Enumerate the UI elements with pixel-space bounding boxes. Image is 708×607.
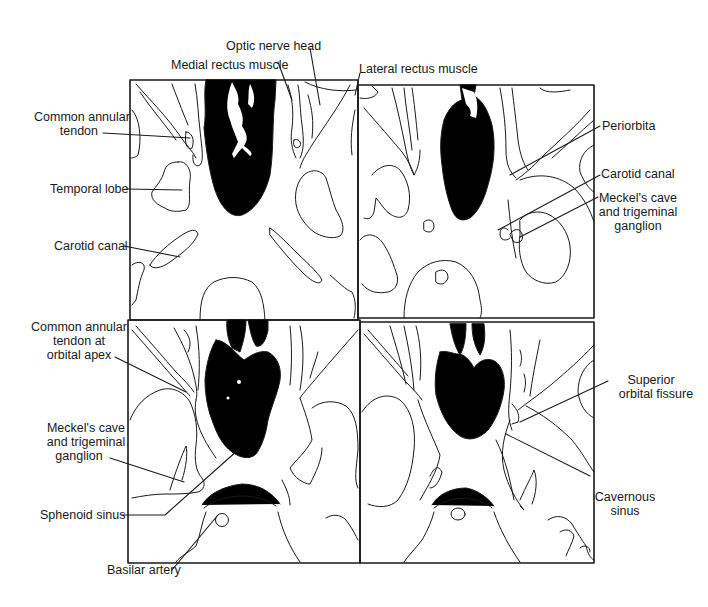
panel-top-right: [360, 85, 594, 318]
label-medial-rectus-muscle: Medial rectus muscle: [171, 58, 288, 72]
panel-bottom-right: [362, 324, 594, 562]
label-carotid-canal-right: Carotid canal: [601, 167, 675, 181]
label-temporal-lobe: Temporal lobe: [50, 182, 129, 196]
panel-top-left: [130, 80, 356, 320]
label-meckels-cave-left: Meckel's cave and trigeminal ganglion: [46, 421, 126, 463]
label-cavernous-sinus: Cavernous sinus: [592, 490, 658, 518]
label-periorbita: Periorbita: [602, 119, 656, 133]
label-common-annular-tendon-apex: Common annular tendon at orbital apex: [30, 320, 128, 362]
label-optic-nerve-head: Optic nerve head: [226, 39, 321, 53]
label-sphenoid-sinus: Sphenoid sinus: [40, 508, 125, 522]
label-common-annular-tendon: Common annular tendon: [34, 110, 126, 138]
label-superior-orbital-fissure: Superior orbital fissure: [608, 373, 704, 401]
label-lateral-rectus-muscle: Lateral rectus muscle: [359, 62, 478, 76]
label-carotid-canal-left: Carotid canal: [54, 239, 128, 253]
panel-bottom-left: [130, 320, 358, 562]
label-meckels-cave-right: Meckel's cave and trigeminal ganglion: [598, 191, 678, 233]
label-basilar-artery: Basilar artery: [107, 563, 181, 577]
